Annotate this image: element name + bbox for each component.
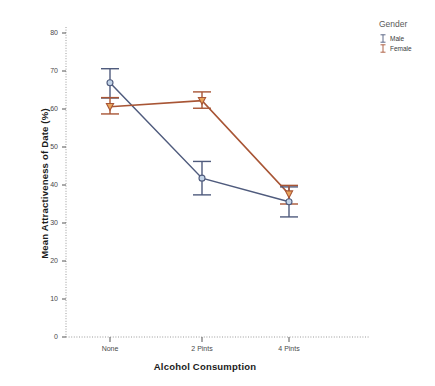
y-tick-label: 60 [32, 105, 58, 113]
error-bar-glyph-icon [379, 34, 387, 43]
legend-title: Gender [379, 19, 435, 29]
legend-label-female: Female [390, 45, 412, 53]
x-tick-label: None [80, 345, 140, 353]
x-tick-label: 4 Pints [259, 345, 319, 353]
y-tick-label: 30 [32, 219, 58, 227]
y-tick-label: 10 [32, 295, 58, 303]
plot-area [0, 0, 435, 386]
chart-container: Mean Attractiveness of Date (%) Alcohol … [0, 0, 435, 386]
y-tick-label: 40 [32, 181, 58, 189]
legend: Gender Male Female [379, 19, 435, 54]
y-tick-label: 80 [32, 29, 58, 37]
y-tick-label: 50 [32, 143, 58, 151]
x-tick-label: 2 Pints [172, 345, 232, 353]
legend-label-male: Male [390, 35, 404, 43]
y-tick-label: 0 [32, 333, 58, 341]
legend-item-male[interactable]: Male [379, 34, 435, 43]
x-axis-title: Alcohol Consumption [55, 361, 355, 372]
error-bar-glyph-icon [379, 44, 387, 53]
y-tick-label: 20 [32, 257, 58, 265]
legend-item-female[interactable]: Female [379, 44, 435, 53]
y-tick-label: 70 [32, 67, 58, 75]
